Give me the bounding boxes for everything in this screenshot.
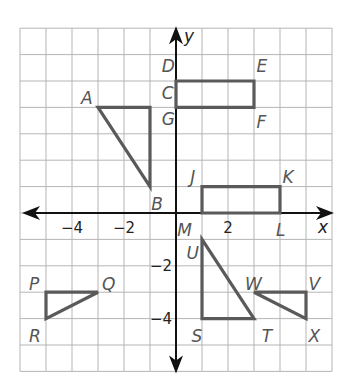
point-label-Q: Q	[102, 274, 115, 294]
point-label-S: S	[192, 326, 203, 346]
point-label-T: T	[262, 326, 274, 346]
y-axis-label: y	[183, 26, 195, 46]
x-tick-label: 2	[223, 219, 233, 237]
rectangle-JKLM	[202, 187, 280, 213]
axes: xy	[22, 26, 334, 373]
point-label-L: L	[276, 220, 285, 240]
y-tick-label: −4	[150, 310, 172, 328]
point-label-G: G	[162, 109, 175, 129]
point-label-M: M	[177, 220, 192, 240]
point-label-F: F	[257, 112, 267, 132]
point-label-V: V	[309, 274, 322, 294]
point-label-P: P	[29, 274, 40, 294]
point-label-U: U	[186, 243, 199, 263]
rectangle-DEFG	[176, 81, 254, 107]
tick-labels: −4−22−2−4	[61, 219, 233, 328]
coordinate-plane: xy DECGFABJKMLUSTWVXPQR −4−22−2−4	[0, 0, 349, 382]
point-label-E: E	[257, 56, 268, 76]
point-label-B: B	[151, 194, 163, 214]
y-tick-label: −2	[150, 257, 172, 275]
x-tick-label: −2	[113, 219, 135, 237]
point-label-K: K	[283, 167, 296, 187]
point-label-D: D	[162, 56, 175, 76]
point-label-C: C	[162, 83, 174, 103]
point-label-A: A	[80, 88, 93, 108]
point-label-W: W	[245, 274, 263, 294]
point-label-X: X	[308, 326, 321, 346]
point-label-J: J	[187, 167, 195, 187]
point-label-R: R	[29, 326, 41, 346]
x-axis-label: x	[317, 217, 329, 237]
x-tick-label: −4	[61, 219, 83, 237]
